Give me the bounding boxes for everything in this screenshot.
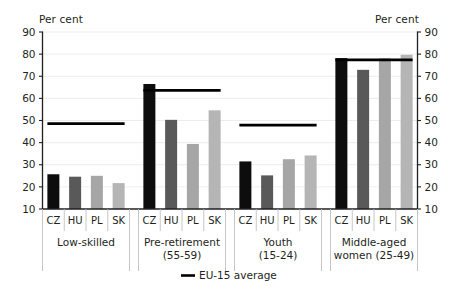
y-tick-label-right: 50: [425, 114, 438, 126]
category-label: HU: [356, 215, 371, 226]
category-label: SK: [112, 215, 125, 226]
y-tick-label-left: 90: [22, 26, 35, 38]
category-label: CZ: [142, 215, 156, 226]
group-label: (15-24): [259, 249, 298, 261]
bar: [379, 58, 391, 209]
category-label: SK: [208, 215, 221, 226]
y-tick-label-right: 90: [425, 26, 438, 38]
bar-chart-plot: 101020203030404050506060707080809090 CZH…: [0, 0, 460, 291]
category-label: HU: [260, 215, 275, 226]
bar: [261, 175, 273, 209]
y-tick-label-left: 10: [22, 203, 35, 215]
bar: [91, 176, 103, 209]
bar: [305, 155, 317, 209]
group-label: Pre-retirement: [144, 236, 220, 248]
y-tick-label-left: 70: [22, 70, 35, 82]
bar: [113, 183, 125, 209]
category-label: CZ: [46, 215, 60, 226]
y-tick-label-right: 60: [425, 92, 438, 104]
y-tick-label-left: 40: [22, 136, 35, 148]
y-tick-label-right: 30: [425, 158, 438, 170]
group-label: women (25-49): [334, 249, 414, 261]
y-tick-label-left: 30: [22, 158, 35, 170]
y-tick-label-left: 20: [22, 181, 35, 193]
category-label: HU: [68, 215, 83, 226]
bar: [239, 161, 251, 209]
bar: [209, 110, 221, 209]
group-label: (55-59): [163, 249, 202, 261]
category-label: PL: [283, 215, 295, 226]
category-label: SK: [400, 215, 413, 226]
group-label: Low-skilled: [57, 236, 115, 248]
bar: [401, 55, 413, 209]
category-label: CZ: [334, 215, 348, 226]
y-tick-label-right: 70: [425, 70, 438, 82]
category-label: HU: [164, 215, 179, 226]
bar: [283, 159, 295, 209]
category-label: PL: [91, 215, 103, 226]
group-label: Middle-aged: [342, 236, 407, 248]
category-label: PL: [187, 215, 199, 226]
category-label: PL: [379, 215, 391, 226]
bar: [69, 177, 81, 209]
group-labels: Low-skilledPre-retirement(55-59)Youth(15…: [43, 231, 418, 271]
bar: [335, 58, 347, 209]
bars-layer: [47, 55, 412, 209]
y-tick-label-right: 10: [425, 203, 438, 215]
y-tick-label-left: 60: [22, 92, 35, 104]
bar: [47, 174, 59, 209]
y-tick-label-left: 50: [22, 114, 35, 126]
category-label: SK: [304, 215, 317, 226]
bar: [143, 84, 155, 209]
y-tick-label-right: 40: [425, 136, 438, 148]
bar: [357, 70, 369, 209]
legend-label: EU-15 average: [199, 269, 277, 281]
category-label: CZ: [238, 215, 252, 226]
category-labels: CZHUPLSKCZHUPLSKCZHUPLSKCZHUPLSK: [43, 209, 418, 231]
bar: [165, 120, 177, 209]
legend: EU-15 average: [181, 269, 277, 281]
y-tick-label-right: 20: [425, 181, 438, 193]
chart-container: Per cent Per cent 1010202030304040505060…: [0, 0, 460, 291]
y-tick-label-right: 80: [425, 48, 438, 60]
y-tick-label-left: 80: [22, 48, 35, 60]
group-label: Youth: [263, 236, 293, 248]
bar: [187, 144, 199, 209]
